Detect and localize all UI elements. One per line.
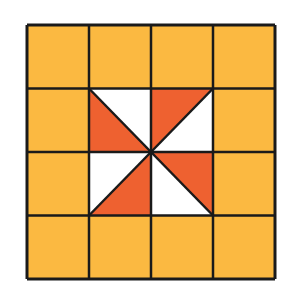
- grid-cell: [213, 216, 275, 280]
- pinwheel-quilt-diagram: [0, 0, 285, 293]
- grid-cell: [213, 152, 275, 216]
- grid-cell: [27, 25, 89, 89]
- grid-cell: [89, 216, 151, 280]
- grid-cell: [151, 25, 213, 89]
- grid-cell: [213, 25, 275, 89]
- grid-cell: [151, 216, 213, 280]
- grid-cell: [27, 152, 89, 216]
- grid-cell: [27, 216, 89, 280]
- grid-cell: [27, 89, 89, 153]
- grid-cell: [89, 25, 151, 89]
- grid-cell: [213, 89, 275, 153]
